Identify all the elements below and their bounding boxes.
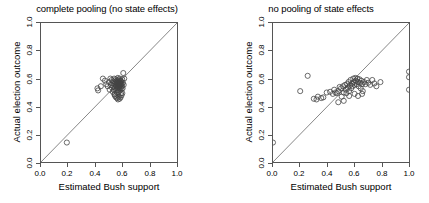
y-tick-mark [36, 135, 40, 136]
y-axis-title: Actual election outcome [243, 42, 254, 143]
scatter-point [324, 90, 329, 95]
x-tick-label: 1.0 [403, 169, 414, 178]
scatter-point [341, 98, 346, 103]
x-tick-mark [40, 163, 41, 167]
x-tick-mark [409, 163, 410, 167]
x-tick-label: 0.0 [34, 169, 45, 178]
y-tick-label: 1.0 [257, 16, 266, 27]
scatter-point [378, 80, 383, 85]
x-tick-label: 0.6 [116, 169, 127, 178]
x-tick-label: 0.0 [266, 169, 277, 178]
scatter-point [406, 75, 409, 80]
plot-area [40, 22, 178, 163]
scatter-plot-canvas [41, 23, 177, 162]
x-tick-label: 1.0 [171, 169, 182, 178]
scatter-point [64, 140, 69, 145]
y-tick-mark [268, 135, 272, 136]
plot-area [272, 22, 410, 163]
x-tick-label: 0.4 [89, 169, 100, 178]
scatter-point [336, 100, 341, 105]
x-axis-title: Estimated Bush support [59, 181, 160, 192]
y-tick-mark [36, 22, 40, 23]
y-tick-label: 0.2 [257, 129, 266, 140]
y-tick-label: 0.6 [257, 73, 266, 84]
chart-panel-no-pooling: no pooling of state effects 0.0 0.2 0.4 … [214, 0, 428, 203]
y-tick-mark [268, 107, 272, 108]
y-tick-mark [268, 50, 272, 51]
y-tick-label: 0.4 [257, 101, 266, 112]
x-tick-mark [67, 163, 68, 167]
y-tick-mark [36, 79, 40, 80]
y-tick-label: 0.4 [25, 101, 34, 112]
panel-title: complete pooling (no state effects) [0, 3, 214, 14]
y-tick-label: 0.8 [257, 44, 266, 55]
y-tick-mark [268, 163, 272, 164]
y-tick-mark [268, 22, 272, 23]
scatter-point [406, 69, 409, 74]
y-tick-mark [36, 163, 40, 164]
chart-panel-complete-pooling: complete pooling (no state effects) 0.0 … [0, 0, 214, 203]
x-tick-mark [95, 163, 96, 167]
x-tick-mark [327, 163, 328, 167]
y-tick-label: 0.0 [25, 157, 34, 168]
x-tick-label: 0.6 [348, 169, 359, 178]
x-tick-mark [177, 163, 178, 167]
x-tick-label: 0.2 [293, 169, 304, 178]
scatter-point [121, 70, 126, 75]
panel-title: no pooling of state effects [214, 3, 428, 14]
x-tick-label: 0.8 [376, 169, 387, 178]
scatter-point [298, 89, 303, 94]
y-tick-mark [268, 79, 272, 80]
scatter-point [273, 140, 276, 145]
y-axis-title: Actual election outcome [11, 42, 22, 143]
y-tick-label: 1.0 [25, 16, 34, 27]
x-tick-mark [354, 163, 355, 167]
x-axis-title: Estimated Bush support [291, 181, 392, 192]
x-tick-mark [382, 163, 383, 167]
x-tick-mark [150, 163, 151, 167]
y-tick-label: 0.8 [25, 44, 34, 55]
x-tick-mark [299, 163, 300, 167]
scatter-point [305, 73, 310, 78]
scatter-point [406, 87, 409, 92]
x-tick-mark [122, 163, 123, 167]
y-tick-mark [36, 50, 40, 51]
x-tick-label: 0.4 [321, 169, 332, 178]
scatter-plot-canvas [273, 23, 409, 162]
x-tick-label: 0.2 [61, 169, 72, 178]
y-tick-label: 0.6 [25, 73, 34, 84]
figure-root: complete pooling (no state effects) 0.0 … [0, 0, 429, 203]
y-tick-label: 0.2 [25, 129, 34, 140]
x-tick-label: 0.8 [144, 169, 155, 178]
y-tick-mark [36, 107, 40, 108]
y-tick-label: 0.0 [257, 157, 266, 168]
x-tick-mark [272, 163, 273, 167]
